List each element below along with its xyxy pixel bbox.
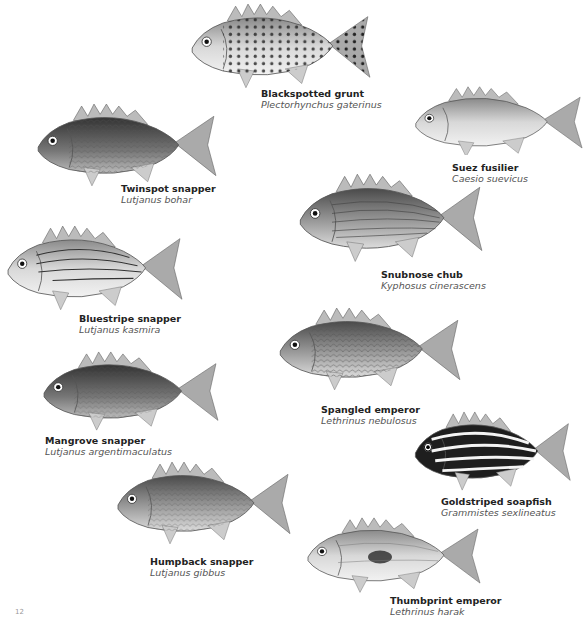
fish-illustration-mangrove-snapper xyxy=(38,350,220,436)
species-label-humpback-snapper: Humpback snapper Lutjanus gibbus xyxy=(150,557,253,579)
scientific-name: Kyphosus cinerascens xyxy=(381,281,486,292)
scientific-name: Lutjanus bohar xyxy=(121,195,216,206)
scientific-name: Lutjanus gibbus xyxy=(150,568,253,579)
species-label-blackspotted-grunt: Blackspotted grunt Plectorhynchus gateri… xyxy=(261,89,382,111)
species-label-spangled-emperor: Spangled emperor Lethrinus nebulosus xyxy=(321,405,420,427)
fish-illustration-twinspot-snapper xyxy=(32,102,218,192)
species-label-bluestripe-snapper: Bluestripe snapper Lutjanus kasmira xyxy=(79,314,181,336)
species-label-snubnose-chub: Snubnose chub Kyphosus cinerascens xyxy=(381,270,486,292)
page-number: 12 xyxy=(15,608,24,616)
fish-illustration-goldstriped-soapfish xyxy=(410,410,572,496)
scientific-name: Lethrinus harak xyxy=(390,607,502,617)
scientific-name: Lutjanus kasmira xyxy=(79,325,181,336)
fish-identification-page: Blackspotted grunt Plectorhynchus gateri… xyxy=(0,0,584,617)
fish-illustration-humpback-snapper xyxy=(112,460,292,550)
scientific-name: Plectorhynchus gaterinus xyxy=(261,100,382,111)
species-label-thumbprint-emperor: Thumbprint emperor Lethrinus harak xyxy=(390,596,502,617)
species-label-mangrove-snapper: Mangrove snapper Lutjanus argentimaculat… xyxy=(45,436,172,458)
scientific-name: Lutjanus argentimaculatus xyxy=(45,447,172,458)
fish-illustration-bluestripe-snapper xyxy=(2,224,184,316)
fish-illustration-snubnose-chub xyxy=(294,172,484,268)
scientific-name: Lethrinus nebulosus xyxy=(321,416,420,427)
fish-illustration-thumbprint-emperor xyxy=(302,516,482,598)
fish-illustration-suez-fusilier xyxy=(410,85,584,155)
species-label-twinspot-snapper: Twinspot snapper Lutjanus bohar xyxy=(121,184,216,206)
fish-illustration-blackspotted-grunt xyxy=(186,2,372,94)
fish-illustration-spangled-emperor xyxy=(274,306,462,396)
